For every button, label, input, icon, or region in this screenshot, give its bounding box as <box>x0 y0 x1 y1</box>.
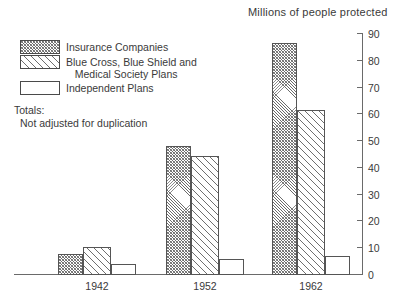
y-tick-mark <box>357 87 363 88</box>
y-tick-label: 50 <box>368 136 380 146</box>
y-tick-label: 30 <box>368 190 380 200</box>
chart-root: Millions of people protected Insurance C… <box>0 0 399 295</box>
bar <box>272 43 297 275</box>
y-tick-mark <box>357 220 363 221</box>
y-tick-label: 80 <box>368 56 380 66</box>
y-tick-label: 40 <box>368 163 380 173</box>
x-axis-label-1952: 1952 <box>166 280 244 292</box>
y-axis-line <box>362 34 363 275</box>
y-tick-label: 0 <box>368 270 374 280</box>
bar <box>111 264 136 275</box>
bar <box>83 247 111 275</box>
bar <box>166 146 191 275</box>
y-tick-mark <box>357 274 363 275</box>
y-tick-mark <box>357 60 363 61</box>
x-axis-label-1942: 1942 <box>58 280 136 292</box>
y-tick-mark <box>357 113 363 114</box>
bar <box>58 254 83 275</box>
bar <box>219 259 244 275</box>
y-tick-mark <box>357 33 363 34</box>
y-tick-label: 70 <box>368 83 380 93</box>
x-axis-label-1962: 1962 <box>272 280 350 292</box>
bar <box>325 256 350 275</box>
y-tick-label: 20 <box>368 216 380 226</box>
y-tick-mark <box>357 247 363 248</box>
axis-title: Millions of people protected <box>248 6 388 18</box>
y-tick-label: 10 <box>368 243 380 253</box>
y-tick-mark <box>357 167 363 168</box>
y-tick-label: 90 <box>368 29 380 39</box>
y-tick-mark <box>357 194 363 195</box>
bar <box>191 156 219 275</box>
plot-area: 0102030405060708090 194219521962 <box>14 30 362 275</box>
y-tick-label: 60 <box>368 109 380 119</box>
bar <box>297 110 325 275</box>
y-tick-mark <box>357 140 363 141</box>
